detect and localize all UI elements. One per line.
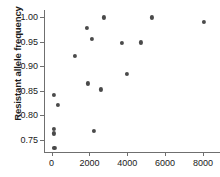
y-tick-mark	[40, 115, 44, 116]
y-tick-label: 0.80	[20, 110, 38, 120]
y-tick-mark	[40, 42, 44, 43]
y-tick-mark	[40, 17, 44, 18]
x-tick-label: 2000	[79, 158, 99, 168]
data-point	[56, 103, 60, 107]
y-tick-mark	[40, 140, 44, 141]
data-point	[52, 127, 56, 131]
data-point	[73, 53, 77, 57]
data-point	[102, 15, 106, 19]
y-tick-label: 0.85	[20, 86, 38, 96]
data-point	[201, 20, 205, 24]
data-point	[85, 81, 89, 85]
data-point	[52, 131, 56, 135]
data-point	[52, 93, 56, 97]
y-tick-label: 1.00	[20, 12, 38, 22]
data-point	[119, 41, 123, 45]
x-tick-mark	[203, 152, 204, 156]
data-point	[125, 72, 129, 76]
data-point	[99, 87, 103, 91]
x-tick-mark	[165, 152, 166, 156]
data-point	[138, 40, 142, 44]
data-point	[150, 15, 154, 19]
plot-area: 0.750.800.850.900.951.00 020004000600080…	[44, 10, 220, 152]
x-tick-label: 4000	[117, 158, 137, 168]
x-tick-label: 0	[49, 158, 54, 168]
x-tick-label: 8000	[193, 158, 213, 168]
scatter-plot-figure: Resistant allele frequency 0.750.800.850…	[0, 0, 220, 177]
data-point	[92, 129, 96, 133]
y-tick-label: 0.75	[20, 135, 38, 145]
x-tick-label: 6000	[155, 158, 175, 168]
y-tick-mark	[40, 91, 44, 92]
x-axis-line	[44, 152, 220, 153]
data-point	[52, 145, 56, 149]
y-tick-label: 0.95	[20, 37, 38, 47]
x-tick-mark	[89, 152, 90, 156]
data-point	[90, 37, 94, 41]
y-tick-mark	[40, 66, 44, 67]
x-tick-mark	[127, 152, 128, 156]
x-tick-mark	[52, 152, 53, 156]
y-tick-label: 0.90	[20, 61, 38, 71]
y-axis-line	[44, 10, 45, 152]
data-point	[85, 26, 89, 30]
